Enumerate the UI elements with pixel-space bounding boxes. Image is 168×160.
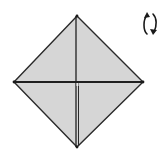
turn-over-icon [144, 12, 157, 35]
top-vertex [76, 15, 79, 18]
diamond-figure [0, 0, 168, 160]
bottom-vertex [76, 146, 79, 149]
center-point [77, 83, 79, 86]
origami-diagram [0, 0, 168, 160]
right-vertex [142, 81, 145, 84]
left-vertex [13, 81, 16, 84]
